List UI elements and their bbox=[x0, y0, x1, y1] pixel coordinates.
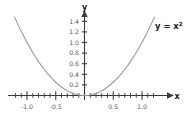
x-axis-tick-label: 0.5 bbox=[108, 103, 118, 110]
y-axis-tick-label: 0.8 bbox=[69, 49, 79, 56]
x-axis-arrow-icon bbox=[167, 92, 174, 98]
x-axis-label: x bbox=[174, 92, 180, 101]
y-axis-label: y bbox=[82, 3, 88, 12]
x-axis-tick-label: -1.0 bbox=[21, 103, 33, 110]
y-axis-tick-label: 1.2 bbox=[69, 28, 79, 35]
x-axis-tick-labels: -1.0-0.50.51.0 bbox=[21, 103, 147, 110]
y-axis-tick-label: 0.2 bbox=[69, 81, 79, 88]
y-axis-tick-labels: 0.20.40.60.81.01.21.4 bbox=[69, 18, 79, 89]
x-axis-tick-label: -0.5 bbox=[50, 103, 62, 110]
parabola-figure: x y -1.0-0.50.51.0 0.20.40.60.81.01.21.4… bbox=[0, 0, 191, 121]
y-axis-tick-label: 0.4 bbox=[69, 71, 79, 78]
equation-main-text: y = x bbox=[155, 21, 179, 31]
y-axis-tick-label: 0.6 bbox=[69, 60, 79, 67]
equation-annotation: y = x2 bbox=[155, 21, 183, 31]
plot-canvas: x y -1.0-0.50.51.0 0.20.40.60.81.01.21.4… bbox=[0, 0, 191, 121]
y-axis-tick-label: 1.4 bbox=[69, 18, 79, 25]
y-axis-tick-label: 1.0 bbox=[69, 39, 79, 46]
equation-exponent: 2 bbox=[179, 21, 183, 27]
x-axis-tick-label: 1.0 bbox=[137, 103, 147, 110]
